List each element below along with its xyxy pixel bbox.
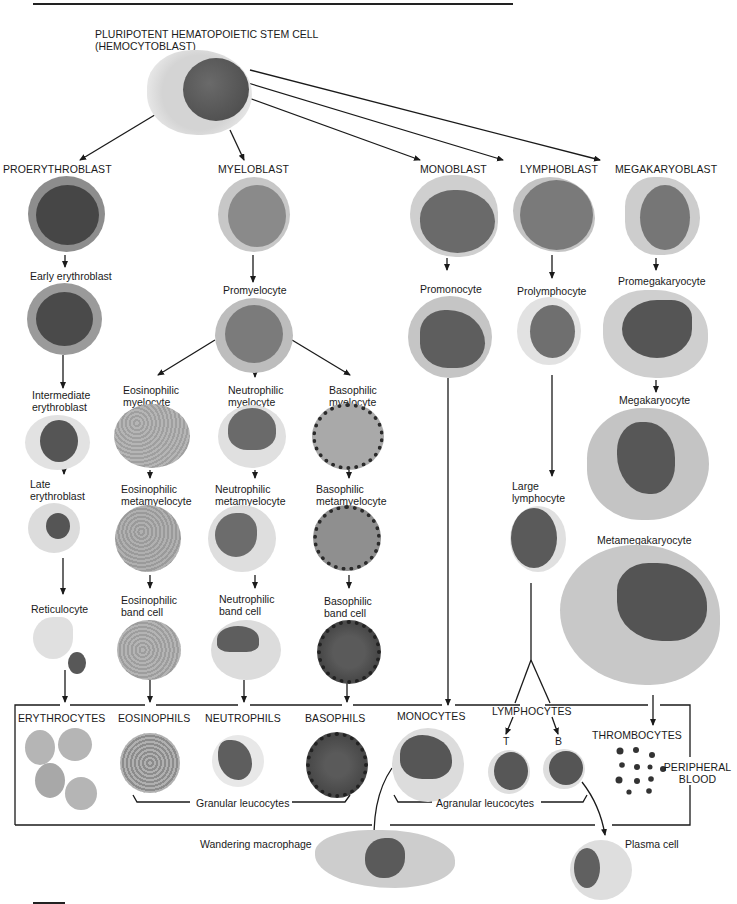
erythrocyte-3 bbox=[35, 763, 65, 798]
label-late-erythroblast: Late erythroblast bbox=[30, 478, 85, 502]
label-intermediate-line1: Intermediate bbox=[32, 389, 90, 401]
label-reticulocyte: Reticulocyte bbox=[31, 603, 88, 615]
label-monocytes: MONOCYTES bbox=[397, 710, 466, 722]
erythrocyte-4 bbox=[65, 777, 97, 810]
label-neutrophils: NEUTROPHILS bbox=[205, 712, 281, 724]
neutrophilic-metamyelocyte-nucleus bbox=[215, 513, 257, 557]
label-eos-meta-line1: Eosinophilic bbox=[121, 483, 192, 495]
label-eosinophilic-metamyelocyte: Eosinophilic metamyelocyte bbox=[121, 483, 192, 507]
neutrophilic-myelocyte-nucleus bbox=[228, 408, 276, 450]
intermediate-erythroblast-nucleus bbox=[40, 420, 78, 462]
label-promegakaryocyte: Promegakaryocyte bbox=[618, 275, 706, 287]
label-granular-leucocytes: Granular leucocytes bbox=[196, 797, 289, 809]
promyelocyte-nucleus bbox=[225, 305, 283, 363]
label-basophilic-band: Basophilic band cell bbox=[324, 595, 372, 619]
label-large-lymphocyte-line1: Large bbox=[512, 480, 565, 492]
label-peripheral-line2: BLOOD bbox=[660, 773, 735, 785]
label-eos-myelocyte-line1: Eosinophilic bbox=[123, 384, 179, 396]
late-erythroblast-nucleus bbox=[46, 513, 70, 539]
label-large-lymphocyte: Large lymphocyte bbox=[512, 480, 565, 504]
label-basophilic-metamyelocyte: Basophilic metamyelocyte bbox=[316, 483, 387, 507]
label-eos-band-line2: band cell bbox=[121, 606, 177, 618]
label-late-line2: erythroblast bbox=[30, 490, 85, 502]
promegakaryocyte-nucleus bbox=[622, 300, 692, 358]
neutrophilic-band-nucleus bbox=[217, 626, 259, 652]
reticulocyte-image bbox=[33, 617, 73, 659]
label-neu-band-line2: band cell bbox=[219, 605, 274, 617]
label-thrombocytes: THROMBOCYTES bbox=[592, 729, 682, 741]
stem-cell-label: PLURIPOTENT HEMATOPOIETIC STEM CELL (HEM… bbox=[95, 28, 318, 52]
erythrocyte-2 bbox=[58, 728, 92, 761]
label-monoblast: MONOBLAST bbox=[420, 163, 487, 175]
b-lymphocyte-nucleus bbox=[549, 751, 583, 785]
label-eosinophils: EOSINOPHILS bbox=[118, 712, 190, 724]
proerythroblast-nucleus bbox=[36, 185, 99, 245]
eosinophilic-metamyelocyte-image bbox=[115, 505, 181, 572]
myeloblast-nucleus bbox=[228, 185, 286, 247]
early-erythroblast-nucleus bbox=[36, 292, 93, 346]
extruded-nucleus bbox=[68, 652, 86, 674]
label-neu-meta-line1: Neutrophilic bbox=[215, 483, 286, 495]
large-lymphocyte-nucleus bbox=[511, 508, 557, 568]
label-peripheral-blood: PERIPHERAL BLOOD bbox=[660, 761, 735, 785]
label-intermediate-erythroblast: Intermediate erythroblast bbox=[32, 389, 90, 413]
macrophage-nucleus bbox=[365, 838, 405, 878]
label-prolymphocyte: Prolymphocyte bbox=[517, 285, 586, 297]
label-eos-band-line1: Eosinophilic bbox=[121, 594, 177, 606]
eosinophilic-band-image bbox=[117, 620, 181, 680]
monoblast-nucleus bbox=[420, 190, 495, 253]
label-t-cell: T bbox=[503, 735, 510, 747]
label-bas-band-line1: Basophilic bbox=[324, 595, 372, 607]
megakaryoblast-nucleus bbox=[640, 185, 690, 250]
label-neutrophilic-metamyelocyte: Neutrophilic metamyelocyte bbox=[215, 483, 286, 507]
label-bas-myelocyte-line1: Basophilic bbox=[329, 384, 377, 396]
plasma-cell-nucleus bbox=[574, 848, 600, 888]
label-neutrophilic-band: Neutrophilic band cell bbox=[219, 593, 274, 617]
label-early-erythroblast: Early erythroblast bbox=[30, 270, 112, 282]
label-promyelocyte: Promyelocyte bbox=[223, 284, 287, 296]
label-myeloblast: MYELOBLAST bbox=[218, 163, 289, 175]
erythrocyte-1 bbox=[25, 730, 55, 765]
eosinophilic-myelocyte-image bbox=[114, 404, 190, 468]
label-basophils: BASOPHILS bbox=[305, 712, 365, 724]
label-late-line1: Late bbox=[30, 478, 85, 490]
label-erythrocytes: ERYTHROCYTES bbox=[18, 712, 105, 724]
label-proerythroblast: PROERYTHROBLAST bbox=[3, 163, 112, 175]
label-large-lymphocyte-line2: lymphocyte bbox=[512, 492, 565, 504]
label-intermediate-line2: erythroblast bbox=[32, 401, 90, 413]
basophilic-metamyelocyte-image bbox=[313, 505, 381, 571]
label-peripheral-line1: PERIPHERAL bbox=[660, 761, 735, 773]
label-lymphoblast: LYMPHOBLAST bbox=[520, 163, 598, 175]
lymphoblast-nucleus bbox=[520, 180, 593, 250]
basophil-image bbox=[306, 732, 368, 798]
label-plasma-cell: Plasma cell bbox=[625, 838, 679, 850]
label-megakaryoblast: MEGAKARYOBLAST bbox=[615, 163, 717, 175]
stem-cell-nucleus bbox=[183, 58, 249, 121]
label-lymphocytes: LYMPHOCYTES bbox=[492, 705, 572, 717]
label-b-cell: B bbox=[555, 735, 562, 747]
basophilic-band-image bbox=[317, 620, 381, 684]
label-bas-meta-line1: Basophilic bbox=[316, 483, 387, 495]
stem-cell-label-line1: PLURIPOTENT HEMATOPOIETIC STEM CELL bbox=[95, 28, 318, 40]
label-eosinophilic-band: Eosinophilic band cell bbox=[121, 594, 177, 618]
label-megakaryocyte: Megakaryocyte bbox=[619, 394, 690, 406]
label-neu-myelocyte-line1: Neutrophilic bbox=[228, 384, 283, 396]
label-bas-band-line2: band cell bbox=[324, 607, 372, 619]
t-lymphocyte-nucleus bbox=[494, 752, 528, 790]
label-promonocyte: Promonocyte bbox=[420, 283, 482, 295]
eosinophil-image bbox=[120, 733, 180, 793]
prolymphocyte-nucleus bbox=[530, 305, 575, 358]
label-neu-band-line1: Neutrophilic bbox=[219, 593, 274, 605]
label-agranular-leucocytes: Agranular leucocytes bbox=[436, 797, 534, 809]
basophilic-myelocyte-image bbox=[312, 403, 384, 470]
label-wandering-macrophage: Wandering macrophage bbox=[200, 838, 312, 850]
